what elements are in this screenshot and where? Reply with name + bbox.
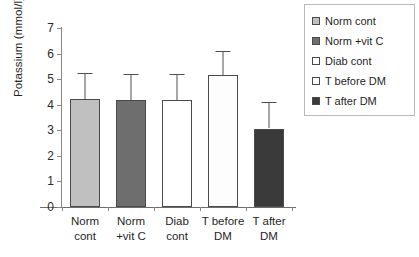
y-tick-label: 6 [47,48,54,60]
y-tick-label: 5 [47,73,54,85]
bar [162,100,192,207]
legend-swatch-icon [312,77,320,85]
legend-label: T before DM [325,75,386,87]
bar [254,129,284,208]
error-bar-cap [78,73,93,74]
x-tick-mark [200,207,201,211]
legend-items: Norm contNorm +vit CDiab contT before DM… [312,11,414,111]
bar [208,75,238,207]
x-label-line-1: T after [238,214,300,229]
legend-label: Diab cont [325,55,371,67]
y-tick-label: 2 [47,150,54,162]
error-bar-cap [170,74,185,75]
y-tick-mark [57,207,61,208]
error-bar-cap [262,102,277,103]
legend-item: Norm cont [312,11,414,31]
legend-item: T after DM [312,91,414,111]
y-tick-label: 4 [47,99,54,111]
y-tick-mark [57,28,61,29]
y-tick-label: 1 [47,175,54,187]
legend-item: Diab cont [312,51,414,71]
error-bar [85,73,86,99]
bar [70,99,100,207]
y-tick-label: 3 [47,124,54,136]
legend-label: Norm +vit C [325,35,383,47]
y-tick-mark [57,105,61,106]
y-tick-mark [57,130,61,131]
y-tick-mark [57,181,61,182]
bar [116,100,146,207]
bar-slot [154,28,200,207]
bar-slot [246,28,292,207]
bar-slot [200,28,246,207]
legend-label: Norm cont [325,15,376,27]
x-label-line-2: DM [238,229,300,244]
y-axis-title-text: Potassium (mmol/l) [12,0,24,112]
legend-item: T before DM [312,71,414,91]
x-tick-mark [154,207,155,211]
error-bar [223,51,224,75]
legend-label: T after DM [325,95,377,107]
y-tick-mark [57,79,61,80]
bar-slot [62,28,108,207]
legend-swatch-icon [312,37,320,45]
bar-chart-figure: Potassium (mmol/l) 76543210 NormcontNorm… [0,0,419,257]
y-tick-label: 7 [47,22,54,34]
error-bar-cap [124,74,139,75]
legend-swatch-icon [312,57,320,65]
legend-item: Norm +vit C [312,31,414,51]
x-tick-mark [246,207,247,211]
error-bar [177,74,178,100]
error-bar [269,102,270,128]
legend-box: Norm contNorm +vit CDiab contT before DM… [304,4,415,116]
x-tick-mark [292,207,293,211]
y-axis-title: Potassium (mmol/l) [16,60,30,180]
x-axis-line [40,207,296,208]
error-bar [131,74,132,100]
x-tick-mark [62,207,63,211]
legend-swatch-icon [312,17,320,25]
y-tick-mark [57,54,61,55]
x-axis-category-label: T afterDM [238,214,300,244]
error-bar-cap [216,51,231,52]
legend-swatch-icon [312,97,320,105]
x-tick-mark [108,207,109,211]
y-tick-mark [57,156,61,157]
y-tick-label: 0 [47,201,54,213]
bar-slot [108,28,154,207]
bars-group [62,28,292,207]
